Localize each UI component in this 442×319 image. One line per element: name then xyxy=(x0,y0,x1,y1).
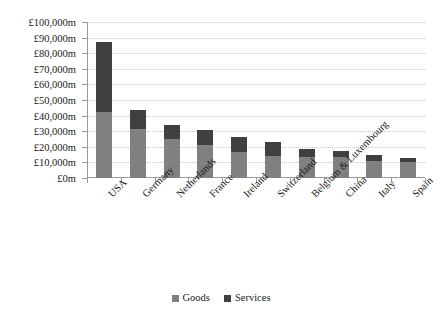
bar-segment-goods xyxy=(164,139,180,178)
x-axis-category-label: Belgium & Luxembourg xyxy=(309,192,317,200)
x-axis-ticks xyxy=(87,178,425,184)
legend-item[interactable]: Goods xyxy=(172,292,210,304)
bar-segment-services xyxy=(299,149,315,157)
x-axis-tick-mark xyxy=(324,178,325,183)
y-axis-tick-label: £60,000m xyxy=(34,79,76,90)
chart-legend: GoodsServices xyxy=(0,292,442,304)
bar-segment-goods xyxy=(96,112,112,178)
bar-segment-goods xyxy=(333,157,349,178)
bar-segment-goods xyxy=(197,145,213,178)
bar-segment-services xyxy=(366,155,382,160)
x-axis-tick-mark xyxy=(391,178,392,183)
bar-segment-services xyxy=(96,42,112,112)
x-axis-tick-mark xyxy=(425,178,426,183)
bar-segment-services xyxy=(130,110,146,129)
legend-swatch-icon xyxy=(224,295,231,302)
bar-chart: £100,000m£90,000m£80,000m£70,000m£60,000… xyxy=(0,0,442,319)
x-axis-category-label: China xyxy=(343,192,351,200)
bar-segment-goods xyxy=(231,152,247,178)
bar-group xyxy=(96,42,112,178)
x-axis-category-label: Spain xyxy=(410,192,418,200)
legend-swatch-icon xyxy=(172,295,179,302)
legend-item[interactable]: Services xyxy=(224,292,271,304)
x-axis-tick-mark xyxy=(357,178,358,183)
bar-group xyxy=(400,158,416,178)
x-axis-tick-mark xyxy=(121,178,122,183)
y-axis-tick-label: £90,000m xyxy=(34,32,76,43)
x-axis-category-label: USA xyxy=(106,192,114,200)
x-axis-category-label: Ireland xyxy=(241,192,249,200)
bar-group xyxy=(265,142,281,178)
bar-segment-services xyxy=(400,158,416,163)
bar-segment-goods xyxy=(366,161,382,178)
y-axis-tick-label: £30,000m xyxy=(34,126,76,137)
y-axis-tick-label: £80,000m xyxy=(34,48,76,59)
bar-segment-goods xyxy=(265,156,281,178)
bar-segment-goods xyxy=(299,157,315,178)
bar-group xyxy=(197,130,213,178)
bar-segment-services xyxy=(164,125,180,139)
x-axis-tick-mark xyxy=(188,178,189,183)
bar-group xyxy=(130,110,146,178)
x-axis-category-label: France xyxy=(207,192,215,200)
x-axis-tick-mark xyxy=(87,178,88,183)
y-axis-tick-label: £100,000m xyxy=(28,17,76,28)
bar-segment-services xyxy=(231,137,247,153)
x-axis-category-label: Germany xyxy=(140,192,148,200)
x-axis-tick-mark xyxy=(290,178,291,183)
y-axis-tick-label: £40,000m xyxy=(34,110,76,121)
bar-segment-services xyxy=(197,130,213,146)
y-axis-tick-label: £10,000m xyxy=(34,157,76,168)
bar-segment-services xyxy=(333,151,349,157)
x-axis-tick-mark xyxy=(256,178,257,183)
bar-group xyxy=(299,149,315,178)
x-axis-category-label: Netherlands xyxy=(174,192,182,200)
legend-label: Goods xyxy=(183,292,210,304)
x-axis-category-label: Switzerland xyxy=(275,192,283,200)
x-axis-category-label: Italy xyxy=(376,192,384,200)
bars-layer xyxy=(87,22,425,178)
bar-segment-goods xyxy=(130,129,146,178)
bar-segment-services xyxy=(265,142,281,156)
bar-segment-goods xyxy=(400,162,416,178)
y-axis-tick-label: £70,000m xyxy=(34,63,76,74)
bar-group xyxy=(164,125,180,178)
y-axis-tick-label: £50,000m xyxy=(34,95,76,106)
x-axis-tick-mark xyxy=(222,178,223,183)
y-axis-tick-label: £0m xyxy=(57,173,76,184)
bar-group xyxy=(366,155,382,178)
y-axis-tick-label: £20,000m xyxy=(34,141,76,152)
bar-group xyxy=(333,151,349,178)
x-axis-tick-mark xyxy=(155,178,156,183)
y-axis: £100,000m£90,000m£80,000m£70,000m£60,000… xyxy=(0,22,82,178)
bar-group xyxy=(231,137,247,178)
legend-label: Services xyxy=(235,292,271,304)
